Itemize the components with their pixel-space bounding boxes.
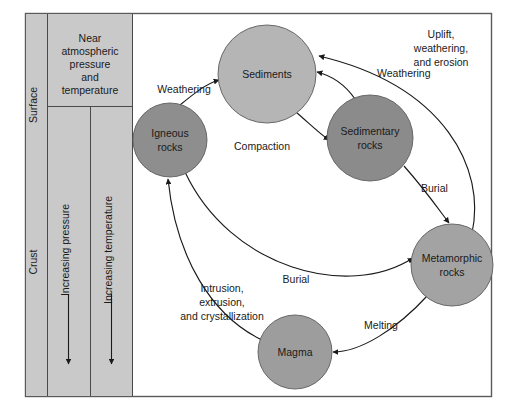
edge-label-magma-to-igneous-line-2: extrusion, — [199, 296, 245, 308]
condition-note-line-3: pressure — [70, 58, 111, 70]
panel-background — [26, 14, 133, 396]
left-condition-panel: Surface Crust Near atmospheric pressure … — [26, 14, 133, 396]
edge-label-igneous-to-metamorphic: Burial — [283, 273, 310, 285]
gradient-temperature-label: Increasing temperature — [102, 196, 114, 304]
edge-label-sedimentary-to-metamorphic: Burial — [421, 182, 448, 194]
rock-cycle-diagram-canvas: Surface Crust Near atmospheric pressure … — [0, 0, 516, 416]
node-igneous-circle[interactable] — [133, 103, 207, 177]
edge-label-metamorphic-to-sediments-line-1: Uplift, — [428, 28, 455, 40]
edge-label-magma-to-igneous-line-1: Intrusion, — [200, 282, 243, 294]
node-magma[interactable]: Magma — [258, 315, 332, 389]
node-sediments-label: Sediments — [242, 68, 292, 80]
condition-note-line-4: and — [81, 71, 99, 83]
node-igneous-label-line-2: rocks — [157, 141, 182, 153]
edge-label-metamorphic-to-sediments-line-3: and erosion — [414, 56, 469, 68]
node-sedimentary-label-line-2: rocks — [357, 139, 382, 151]
edge-label-sediments-to-sedimentary: Compaction — [234, 140, 290, 152]
zone-label-surface: Surface — [27, 87, 39, 123]
node-metamorphic[interactable]: Metamorphic rocks — [411, 224, 493, 306]
zone-label-crust: Crust — [27, 249, 39, 274]
node-magma-label: Magma — [277, 346, 312, 358]
node-sedimentary[interactable]: Sedimentary rocks — [327, 95, 413, 181]
edge-label-metamorphic-to-sediments-line-2: weathering, — [413, 42, 468, 54]
node-metamorphic-label-line-2: rocks — [439, 266, 464, 278]
condition-note-line-2: atmospheric — [61, 45, 118, 57]
condition-note-line-5: temperature — [62, 84, 119, 96]
node-metamorphic-label-line-1: Metamorphic — [422, 252, 483, 264]
node-igneous[interactable]: Igneous rocks — [133, 103, 207, 177]
node-sedimentary-label-line-1: Sedimentary — [341, 125, 401, 137]
node-sediments[interactable]: Sediments — [218, 25, 316, 123]
node-metamorphic-circle[interactable] — [411, 224, 493, 306]
edge-label-metamorphic-to-magma: Melting — [364, 319, 398, 331]
node-sedimentary-circle[interactable] — [327, 95, 413, 181]
condition-note-line-1: Near — [79, 32, 102, 44]
node-igneous-label-line-1: Igneous — [151, 127, 188, 139]
edge-label-igneous-to-sediments: Weathering — [157, 83, 211, 95]
edge-label-magma-to-igneous-line-3: and crystallization — [180, 310, 264, 322]
gradient-pressure-label: Increasing pressure — [59, 204, 71, 296]
edge-label-sedimentary-to-sediments: Weathering — [377, 67, 431, 79]
rock-cycle-figure: Surface Crust Near atmospheric pressure … — [0, 0, 516, 416]
